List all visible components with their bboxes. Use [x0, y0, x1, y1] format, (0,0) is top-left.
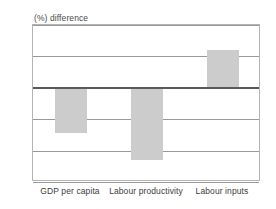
- x-axis-category-label: Labour inputs: [196, 186, 249, 196]
- plot-area: [32, 24, 260, 181]
- bar: [131, 88, 163, 160]
- x-axis-category-labels: GDP per capitaLabour productivityLabour …: [32, 186, 260, 202]
- bar: [207, 50, 239, 88]
- zero-line: [33, 87, 259, 89]
- y-axis-title: (%) difference: [34, 13, 88, 23]
- x-axis-category-label: GDP per capita: [40, 186, 99, 196]
- gridline: [33, 182, 259, 183]
- bar: [55, 88, 87, 134]
- x-axis-category-label: Labour productivity: [109, 186, 183, 196]
- bar-series: [33, 25, 259, 180]
- bar-chart: (%) difference 40200-20-40-60 GDP per ca…: [0, 0, 276, 209]
